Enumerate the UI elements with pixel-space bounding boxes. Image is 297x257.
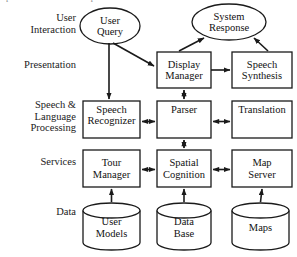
ellipse-user-query xyxy=(80,8,140,44)
box-display-manager xyxy=(157,52,211,88)
architecture-diagram: presentation of the component modules. U… xyxy=(0,0,297,257)
box-tour-manager xyxy=(83,150,140,187)
edge-maps-to-map-server xyxy=(261,189,263,202)
row-label-data: Data xyxy=(2,206,76,218)
edge-speech-synthesis-to-system-response xyxy=(254,38,268,51)
row-label-presentation: Presentation xyxy=(2,59,76,71)
box-speech-synthesis xyxy=(232,52,292,88)
box-spatial-cognition xyxy=(157,150,211,187)
edge-user-query-to-display-manager xyxy=(113,43,154,66)
box-map-server xyxy=(232,150,292,187)
box-translation xyxy=(232,101,292,138)
box-speech-recognizer xyxy=(83,101,140,138)
node-shapes xyxy=(80,4,292,250)
box-parser xyxy=(157,101,211,138)
row-label-services: Services xyxy=(2,156,76,168)
cylinder-top-maps xyxy=(232,203,289,218)
row-label-user-interaction: User Interaction xyxy=(2,12,76,35)
row-label-speech-language-processing: Speech & Language Processing xyxy=(2,99,76,134)
cylinder-top-data-base xyxy=(157,203,211,218)
ellipse-system-response xyxy=(192,4,266,40)
edge-display-manager-to-system-response xyxy=(179,38,204,51)
cylinder-top-user-models xyxy=(83,203,140,218)
